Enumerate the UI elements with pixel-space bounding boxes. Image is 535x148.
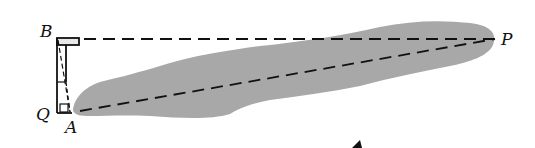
arrow-head-fragment bbox=[352, 140, 362, 148]
label-p: P bbox=[500, 29, 513, 49]
label-q: Q bbox=[36, 104, 50, 124]
label-a: A bbox=[63, 117, 77, 137]
diagram-canvas: B Q A P bbox=[0, 0, 535, 148]
gray-region bbox=[73, 21, 494, 118]
label-b: B bbox=[39, 21, 53, 41]
